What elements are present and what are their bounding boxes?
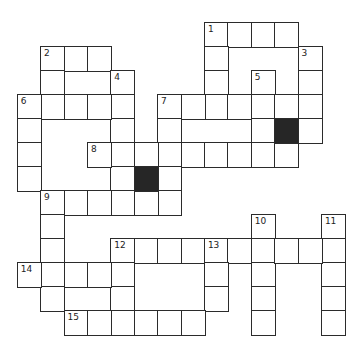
clue-number: 6 bbox=[21, 96, 27, 106]
grid-cell[interactable] bbox=[321, 286, 346, 312]
grid-cell[interactable]: 1 bbox=[204, 22, 229, 48]
clue-number: 8 bbox=[91, 144, 97, 154]
grid-cell[interactable] bbox=[321, 262, 346, 288]
grid-cell[interactable] bbox=[134, 310, 159, 336]
grid-cell[interactable] bbox=[40, 214, 65, 240]
grid-cell[interactable] bbox=[17, 166, 42, 192]
grid-cell[interactable] bbox=[298, 118, 323, 144]
grid-cell[interactable] bbox=[321, 238, 346, 264]
grid-cell[interactable] bbox=[40, 94, 65, 120]
grid-cell[interactable] bbox=[40, 286, 65, 312]
grid-cell[interactable] bbox=[134, 142, 159, 168]
grid-cell[interactable] bbox=[134, 190, 159, 216]
grid-cell[interactable] bbox=[110, 94, 135, 120]
grid-cell[interactable] bbox=[40, 262, 65, 288]
grid-cell[interactable] bbox=[251, 142, 276, 168]
grid-cell[interactable] bbox=[298, 70, 323, 96]
grid-cell[interactable]: 9 bbox=[40, 190, 65, 216]
grid-cell[interactable] bbox=[274, 238, 299, 264]
grid-cell[interactable] bbox=[227, 142, 252, 168]
grid-cell[interactable]: 14 bbox=[17, 262, 42, 288]
grid-cell[interactable] bbox=[110, 286, 135, 312]
grid-cell[interactable] bbox=[227, 94, 252, 120]
grid-cell[interactable] bbox=[157, 118, 182, 144]
clue-number: 1 bbox=[208, 24, 214, 34]
grid-cell[interactable] bbox=[110, 166, 135, 192]
grid-cell[interactable] bbox=[298, 238, 323, 264]
grid-cell[interactable] bbox=[227, 238, 252, 264]
grid-cell[interactable]: 10 bbox=[251, 214, 276, 240]
grid-cell[interactable]: 11 bbox=[321, 214, 346, 240]
grid-cell[interactable] bbox=[204, 142, 229, 168]
grid-cell[interactable] bbox=[17, 142, 42, 168]
clue-number: 9 bbox=[44, 192, 50, 202]
crossword-grid: 123456789101112131415 bbox=[0, 0, 357, 354]
grid-cell[interactable] bbox=[157, 238, 182, 264]
grid-cell[interactable]: 13 bbox=[204, 238, 229, 264]
clue-number: 12 bbox=[114, 240, 125, 250]
grid-cell[interactable] bbox=[251, 94, 276, 120]
grid-cell[interactable] bbox=[204, 262, 229, 288]
clue-number: 5 bbox=[255, 72, 261, 82]
grid-cell[interactable] bbox=[274, 142, 299, 168]
clue-number: 7 bbox=[161, 96, 167, 106]
grid-cell[interactable]: 7 bbox=[157, 94, 182, 120]
grid-cell[interactable] bbox=[87, 46, 112, 72]
grid-cell[interactable] bbox=[157, 310, 182, 336]
grid-cell[interactable] bbox=[110, 310, 135, 336]
grid-cell[interactable] bbox=[251, 118, 276, 144]
grid-cell[interactable]: 6 bbox=[17, 94, 42, 120]
clue-number: 4 bbox=[114, 72, 120, 82]
grid-cell[interactable] bbox=[134, 238, 159, 264]
grid-cell[interactable] bbox=[251, 238, 276, 264]
grid-cell[interactable] bbox=[181, 94, 206, 120]
grid-cell[interactable] bbox=[227, 22, 252, 48]
grid-cell[interactable] bbox=[157, 166, 182, 192]
grid-cell[interactable] bbox=[87, 190, 112, 216]
grid-cell[interactable] bbox=[87, 262, 112, 288]
grid-cell[interactable] bbox=[110, 190, 135, 216]
grid-cell[interactable] bbox=[40, 70, 65, 96]
grid-cell[interactable] bbox=[321, 310, 346, 336]
grid-cell[interactable] bbox=[64, 190, 89, 216]
grid-cell[interactable] bbox=[17, 118, 42, 144]
grid-cell[interactable] bbox=[110, 142, 135, 168]
grid-cell[interactable]: 2 bbox=[40, 46, 65, 72]
clue-number: 11 bbox=[325, 216, 336, 226]
grid-cell[interactable] bbox=[64, 46, 89, 72]
black-cell bbox=[134, 166, 159, 192]
grid-cell[interactable] bbox=[274, 22, 299, 48]
grid-cell[interactable] bbox=[298, 94, 323, 120]
grid-cell[interactable] bbox=[87, 94, 112, 120]
grid-cell[interactable] bbox=[64, 262, 89, 288]
grid-cell[interactable] bbox=[64, 94, 89, 120]
grid-cell[interactable] bbox=[251, 310, 276, 336]
grid-cell[interactable] bbox=[251, 286, 276, 312]
grid-cell[interactable] bbox=[87, 310, 112, 336]
grid-cell[interactable]: 12 bbox=[110, 238, 135, 264]
grid-cell[interactable] bbox=[251, 22, 276, 48]
grid-cell[interactable]: 5 bbox=[251, 70, 276, 96]
clue-number: 14 bbox=[21, 264, 32, 274]
grid-cell[interactable] bbox=[40, 238, 65, 264]
grid-cell[interactable]: 15 bbox=[64, 310, 89, 336]
grid-cell[interactable]: 8 bbox=[87, 142, 112, 168]
grid-cell[interactable] bbox=[204, 94, 229, 120]
grid-cell[interactable] bbox=[274, 94, 299, 120]
grid-cell[interactable] bbox=[110, 262, 135, 288]
grid-cell[interactable] bbox=[157, 190, 182, 216]
black-cell bbox=[274, 118, 299, 144]
grid-cell[interactable] bbox=[204, 70, 229, 96]
grid-cell[interactable] bbox=[181, 310, 206, 336]
grid-cell[interactable] bbox=[251, 262, 276, 288]
grid-cell[interactable] bbox=[181, 142, 206, 168]
grid-cell[interactable] bbox=[204, 46, 229, 72]
clue-number: 13 bbox=[208, 240, 219, 250]
grid-cell[interactable]: 4 bbox=[110, 70, 135, 96]
grid-cell[interactable] bbox=[157, 142, 182, 168]
grid-cell[interactable] bbox=[181, 238, 206, 264]
grid-cell[interactable]: 3 bbox=[298, 46, 323, 72]
clue-number: 3 bbox=[302, 48, 308, 58]
grid-cell[interactable] bbox=[204, 286, 229, 312]
grid-cell[interactable] bbox=[110, 118, 135, 144]
